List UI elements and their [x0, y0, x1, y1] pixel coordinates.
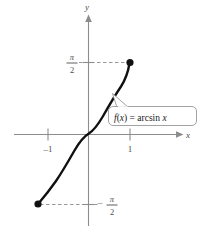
- two-denominator: 2: [70, 65, 74, 75]
- x-tick-label-pos1: 1: [128, 144, 133, 154]
- y-tick-label-pi-over-2: π 2: [67, 52, 78, 75]
- arcsin-curve: [39, 64, 130, 204]
- y-axis-arrowhead: [85, 15, 92, 23]
- lower-endpoint-dot: [34, 200, 41, 207]
- upper-endpoint-dot: [126, 59, 133, 66]
- callout-label: f(x) = arcsin x: [114, 113, 167, 124]
- callout-equals: = arcsin: [127, 113, 162, 123]
- callout-pointer-tail: [113, 94, 129, 108]
- minus-sign-lower: –: [97, 197, 103, 207]
- two-denominator-lower: 2: [110, 207, 114, 217]
- y-tick-label-neg-pi-over-2: – π 2: [97, 194, 118, 217]
- figure-container: y x –1 1 π 2 – π 2: [0, 0, 199, 229]
- x-tick-label-neg1: –1: [43, 144, 53, 154]
- pi-numerator-lower: π: [110, 194, 115, 204]
- pi-numerator: π: [70, 52, 75, 62]
- arcsin-graph: y x –1 1 π 2 – π 2: [0, 0, 199, 229]
- callout-variable: x: [161, 113, 167, 123]
- y-axis-label: y: [84, 2, 89, 12]
- x-axis-label: x: [185, 130, 190, 140]
- x-axis-arrowhead: [176, 131, 184, 138]
